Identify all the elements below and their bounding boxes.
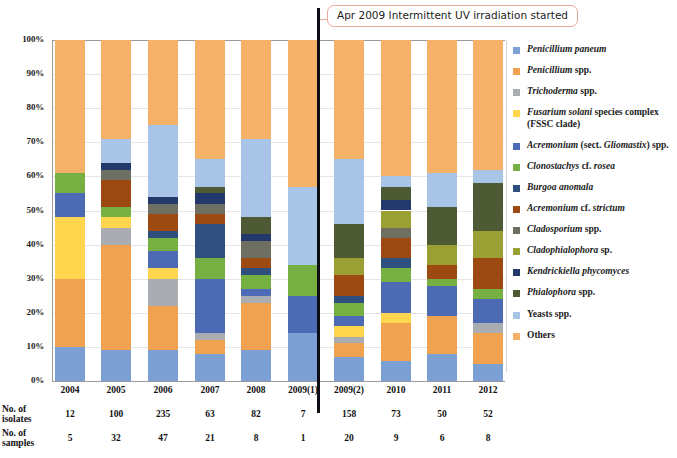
bar-2006[interactable] [148,40,178,381]
legend-item[interactable]: Others [513,330,677,342]
bar-segment[interactable] [473,364,503,381]
bar-segment[interactable] [241,139,271,217]
bar-segment[interactable] [241,303,271,351]
bar-segment[interactable] [334,303,364,317]
bar-segment[interactable] [101,207,131,217]
bar-segment[interactable] [148,204,178,214]
bar-2004[interactable] [55,40,85,381]
bar-2012[interactable] [473,40,503,381]
bar-segment[interactable] [427,316,457,354]
bar-segment[interactable] [334,258,364,275]
bar-segment[interactable] [427,265,457,279]
bar-segment[interactable] [381,40,411,176]
bar-segment[interactable] [55,193,85,217]
bar-segment[interactable] [101,350,131,381]
bar-2009(2)[interactable] [334,40,364,381]
bar-segment[interactable] [334,343,364,357]
bar-2005[interactable] [101,40,131,381]
bar-segment[interactable] [381,228,411,238]
legend-item[interactable]: Fusarium solani species complex(FSSC cla… [513,107,677,130]
bar-segment[interactable] [55,347,85,381]
bar-segment[interactable] [473,289,503,299]
bar-segment[interactable] [148,268,178,278]
bar-segment[interactable] [427,207,457,245]
bar-segment[interactable] [288,40,318,187]
bar-segment[interactable] [427,173,457,207]
bar-segment[interactable] [241,217,271,234]
bar-segment[interactable] [101,139,131,163]
bar-segment[interactable] [148,40,178,125]
bar-segment[interactable] [288,187,318,265]
bar-segment[interactable] [195,204,225,214]
bar-segment[interactable] [473,231,503,258]
legend-item[interactable]: Acremonium (sect. Gliomastix) spp. [513,140,677,152]
bar-segment[interactable] [241,275,271,289]
bar-segment[interactable] [334,224,364,258]
bar-segment[interactable] [148,214,178,231]
legend-item[interactable]: Acremonium cf. strictum [513,203,677,215]
bar-2011[interactable] [427,40,457,381]
bar-segment[interactable] [55,217,85,278]
legend-item[interactable]: Yeasts spp. [513,309,677,321]
legend-item[interactable]: Kendrickiella phycomyces [513,266,677,278]
bar-segment[interactable] [148,231,178,238]
bar-segment[interactable] [241,234,271,241]
bar-segment[interactable] [381,282,411,313]
bar-2008[interactable] [241,40,271,381]
legend-item[interactable]: Phialophora spp. [513,287,677,299]
bar-segment[interactable] [427,279,457,286]
bar-segment[interactable] [101,180,131,207]
bar-segment[interactable] [148,350,178,381]
legend-item[interactable]: Penicillium paneum [513,44,677,56]
bar-segment[interactable] [334,40,364,159]
bar-segment[interactable] [381,211,411,228]
legend-item[interactable]: Trichoderma spp. [513,86,677,98]
bar-segment[interactable] [55,40,85,173]
bar-segment[interactable] [148,238,178,252]
bar-segment[interactable] [148,125,178,197]
bar-segment[interactable] [148,279,178,306]
bar-segment[interactable] [101,163,131,170]
bar-segment[interactable] [101,40,131,139]
bar-segment[interactable] [334,316,364,326]
bar-segment[interactable] [381,268,411,282]
bar-segment[interactable] [241,258,271,268]
bar-segment[interactable] [101,170,131,180]
bar-segment[interactable] [241,350,271,381]
legend-item[interactable]: Cladosporium spp. [513,224,677,236]
legend-item[interactable]: Burgoa anomala [513,182,677,194]
bar-segment[interactable] [381,238,411,258]
bar-segment[interactable] [427,245,457,265]
bar-segment[interactable] [195,214,225,224]
bar-segment[interactable] [427,354,457,381]
bar-segment[interactable] [241,289,271,296]
bar-segment[interactable] [473,333,503,364]
legend-item[interactable]: Penicillium spp. [513,65,677,77]
bar-segment[interactable] [334,337,364,344]
bar-segment[interactable] [195,224,225,258]
legend-item[interactable]: Clonostachys cf. rosea [513,161,677,173]
bar-segment[interactable] [288,333,318,381]
bar-segment[interactable] [195,187,225,194]
bar-segment[interactable] [195,340,225,354]
bar-segment[interactable] [195,40,225,159]
bar-segment[interactable] [148,306,178,350]
bar-segment[interactable] [241,296,271,303]
bar-segment[interactable] [473,170,503,184]
bar-segment[interactable] [427,286,457,317]
bar-segment[interactable] [241,268,271,275]
bar-segment[interactable] [473,183,503,231]
bar-segment[interactable] [55,173,85,193]
bar-segment[interactable] [473,299,503,323]
bar-segment[interactable] [381,176,411,186]
bar-segment[interactable] [195,193,225,203]
bar-2010[interactable] [381,40,411,381]
bar-segment[interactable] [241,40,271,139]
bar-segment[interactable] [473,323,503,333]
bar-segment[interactable] [381,361,411,381]
bar-segment[interactable] [288,265,318,296]
bar-segment[interactable] [381,187,411,201]
bar-segment[interactable] [241,241,271,258]
bar-segment[interactable] [101,228,131,245]
bar-2007[interactable] [195,40,225,381]
